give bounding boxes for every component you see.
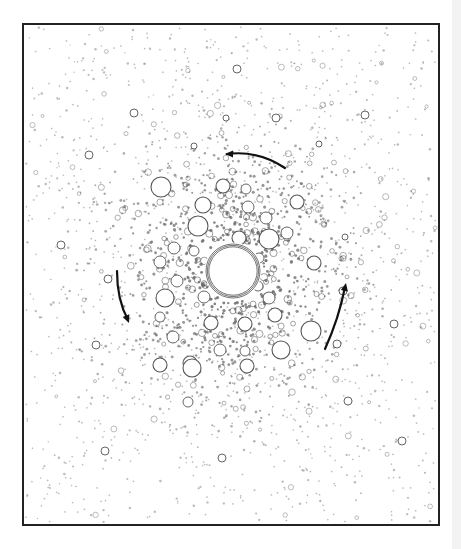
bubble-circle <box>272 341 290 359</box>
bubble-circle <box>188 216 208 236</box>
bubble-circle <box>153 358 167 372</box>
bubble-circle <box>218 454 226 462</box>
bubble-circle <box>130 109 138 117</box>
bubble-circle <box>57 241 65 249</box>
bubble-circle <box>216 179 230 193</box>
bubble-circle <box>204 316 218 330</box>
central-circle <box>205 243 262 300</box>
bubble-circle <box>92 341 100 349</box>
bubble-circle <box>344 397 352 405</box>
bubble-circle <box>241 184 251 194</box>
bubble-circle <box>223 115 229 121</box>
bubble-circle <box>154 256 166 268</box>
bubble-circle <box>281 227 293 239</box>
rotating-cluster-diagram <box>0 0 461 549</box>
bubble-circle <box>398 437 406 445</box>
central-mass <box>205 243 262 300</box>
bubble-circle <box>214 344 226 356</box>
bubble-circle <box>168 242 180 254</box>
bubble-circle <box>240 359 254 373</box>
bubble-circle <box>260 212 272 224</box>
bubble-circle <box>316 141 322 147</box>
bubble-circle <box>101 447 109 455</box>
bubble-circle <box>233 65 241 73</box>
bubble-circle <box>171 275 183 287</box>
bubble-circle <box>238 317 252 331</box>
bubble-circle <box>183 397 193 407</box>
bubble-circle <box>390 320 398 328</box>
page-edge <box>452 0 461 549</box>
bubble-circle <box>195 197 211 213</box>
bubble-circle <box>155 312 165 322</box>
bubble-circle <box>307 256 321 270</box>
bubble-circle <box>301 321 321 341</box>
bubble-circle <box>189 246 199 256</box>
bubble-circle <box>151 177 171 197</box>
bubble-circle <box>104 275 112 283</box>
bubble-circle <box>85 151 93 159</box>
bubble-circle <box>268 308 282 322</box>
bubble-circle <box>167 331 179 343</box>
bubble-circle <box>198 291 210 303</box>
bubble-circle <box>263 292 275 304</box>
bubble-circle <box>290 195 304 209</box>
bubble-circle <box>342 234 348 240</box>
bubble-circle <box>240 346 250 356</box>
bubble-circle <box>191 143 197 149</box>
bubble-circle <box>183 359 201 377</box>
bubble-circle <box>259 229 279 249</box>
bubble-circle <box>242 201 254 213</box>
bubble-circle <box>361 111 369 119</box>
bubble-circle <box>156 289 174 307</box>
bubble-circle <box>333 340 341 348</box>
bubble-circle <box>272 114 280 122</box>
